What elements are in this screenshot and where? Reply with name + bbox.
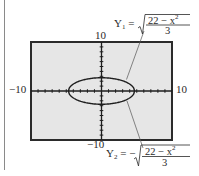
y2-name: Y — [106, 147, 114, 159]
y2-exponent: 2 — [172, 144, 176, 152]
x-max-label: 10 — [176, 84, 187, 95]
y-max-label: 10 — [95, 30, 106, 41]
y1-numerator: 22 − x2 — [148, 14, 178, 26]
y-min-label: −10 — [87, 139, 104, 150]
y1-subscript: 1 — [122, 23, 126, 31]
y1-name: Y — [114, 17, 122, 29]
y1-numerator-text: 22 − x — [148, 15, 175, 26]
y1-exponent: 2 — [175, 13, 179, 21]
y1-equals: = — [128, 17, 134, 29]
y2-equation-lhs: Y2 = − — [106, 148, 135, 161]
y2-equals-minus: = − — [120, 147, 135, 159]
y2-numerator-text: 22 − x — [145, 146, 172, 157]
x-min-label: −10 — [9, 84, 26, 95]
y2-denominator: 3 — [162, 158, 167, 169]
y2-subscript: 2 — [114, 153, 118, 161]
y1-denominator: 3 — [165, 26, 170, 37]
y1-equation-lhs: Y1 = — [114, 18, 134, 31]
y2-numerator: 22 − x2 — [145, 145, 175, 157]
